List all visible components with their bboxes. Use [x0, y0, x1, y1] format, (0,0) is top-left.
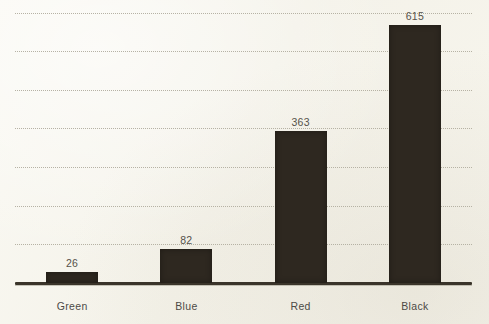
- bar-group[interactable]: 82Blue: [160, 8, 212, 283]
- x-axis-label-black: Black: [401, 300, 428, 312]
- bar-group[interactable]: 615Black: [389, 8, 441, 283]
- x-axis-label-green: Green: [57, 300, 88, 312]
- bar-black[interactable]: [389, 25, 441, 283]
- bar-group[interactable]: 26Green: [46, 8, 98, 283]
- bar-blue[interactable]: [160, 249, 212, 283]
- x-axis-label-red: Red: [290, 300, 310, 312]
- bar-red[interactable]: [275, 131, 327, 283]
- bar-value-label: 26: [66, 257, 78, 269]
- bar-value-label: 82: [180, 234, 192, 246]
- bar-chart: 26Green82Blue363Red615Black: [0, 0, 489, 324]
- bar-value-label: 363: [291, 116, 309, 128]
- bar-group[interactable]: 363Red: [275, 8, 327, 283]
- bar-green[interactable]: [46, 272, 98, 283]
- x-axis-label-blue: Blue: [175, 300, 197, 312]
- bar-value-label: 615: [406, 10, 424, 22]
